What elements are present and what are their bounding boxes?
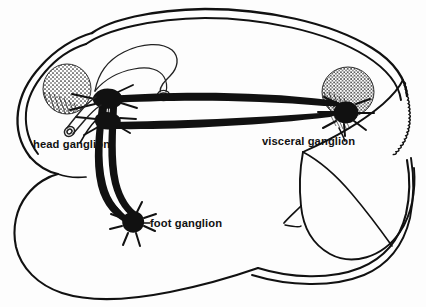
- foot-ganglion-mass: [122, 212, 144, 233]
- label-visceral-ganglion: visceral ganglion: [262, 135, 355, 147]
- figure-root: head ganglion visceral ganglion foot gan…: [0, 0, 426, 307]
- label-head-ganglion: head ganglion: [33, 138, 110, 150]
- head-nerve-branch-8: [120, 118, 136, 119]
- label-foot-ganglion: foot ganglion: [150, 217, 222, 229]
- mollusc-nervous-system-diagram: head ganglion visceral ganglion foot gan…: [0, 0, 426, 307]
- visceral-ganglion-mass: [334, 102, 359, 124]
